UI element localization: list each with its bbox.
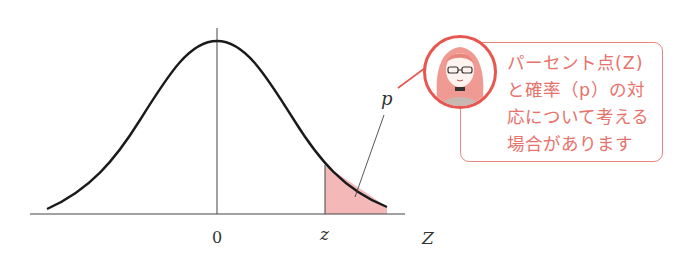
character-face-icon xyxy=(426,38,494,106)
callout-line-4: 場合があります xyxy=(507,131,667,158)
callout-text: パーセント点(Z) と確率（p）の対 応について考える 場合があります xyxy=(507,50,667,158)
callout-line-1: パーセント点(Z) xyxy=(507,50,667,77)
p-label: p xyxy=(381,88,393,109)
avatar xyxy=(423,35,497,109)
p-leader-line xyxy=(355,115,384,197)
origin-label: 0 xyxy=(212,228,222,247)
z-label: z xyxy=(320,224,329,244)
callout-line-3: 応について考える xyxy=(507,104,667,131)
callout-pointer xyxy=(398,68,425,88)
callout-line-2: と確率（p）の対 xyxy=(507,77,667,104)
axis-z-label: Z xyxy=(422,228,434,248)
